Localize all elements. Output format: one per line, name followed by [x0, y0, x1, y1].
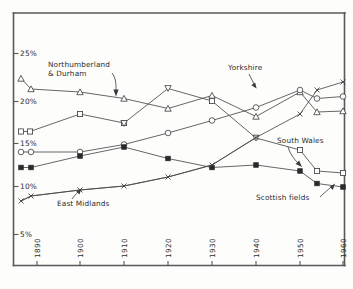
series-square-open [18, 86, 345, 176]
marker-square-filled [78, 154, 83, 159]
marker-square-filled [298, 169, 303, 174]
marker-square [77, 111, 82, 116]
annotation-label-line2: & Durham [48, 69, 87, 78]
x-tick-label-1900: 1900 [76, 238, 85, 258]
annotation-arrowhead-icon [251, 83, 256, 89]
marker-square-filled [341, 185, 346, 190]
x-tick-label-1960: 1960 [339, 238, 348, 258]
y-tick-label-20: 20% [20, 97, 37, 106]
marker-square [314, 168, 319, 173]
marker-square-filled [29, 165, 34, 170]
y-tick-label-15: 15% [20, 139, 37, 148]
x-tick-label-1950: 1950 [296, 238, 305, 258]
marker-x [19, 199, 24, 204]
series-south-wales [19, 145, 346, 190]
figure-panel: 25% 20% 15% 10% 5% 1890 1900 1910 1920 1… [0, 0, 353, 289]
series-line-a [21, 138, 256, 202]
series-northumberland-durham [18, 75, 346, 119]
marker-circle [28, 149, 34, 155]
marker-circle [209, 118, 215, 124]
x-axis-ticks: 1890 1900 1910 1920 1930 1940 1950 1960 [33, 238, 348, 265]
marker-square [27, 129, 32, 134]
marker-square [209, 98, 214, 103]
annotation-label-line1: Northumberland [48, 60, 110, 69]
marker-circle [165, 130, 171, 136]
annotation-arrowhead-icon [113, 90, 118, 97]
marker-square [18, 129, 23, 134]
y-axis-ticks: 25% 20% 15% 10% 5% [14, 49, 38, 239]
marker-square-filled [122, 145, 127, 150]
annotation-leader [72, 192, 78, 199]
y-tick-label-25: 25% [20, 49, 37, 58]
series-line [21, 89, 343, 174]
marker-circle [340, 94, 346, 100]
annotation-leader [320, 187, 331, 197]
annotation-arrowhead-icon [330, 184, 335, 191]
marker-circle [297, 87, 303, 93]
annotation-label: Scottish fields [256, 193, 309, 202]
x-tick-label-1930: 1930 [208, 238, 217, 258]
marker-square-filled [166, 156, 171, 161]
marker-square-filled [210, 165, 215, 170]
x-tick-label-1910: 1910 [120, 238, 129, 258]
x-tick-label-1890: 1890 [33, 238, 42, 258]
marker-square-filled [19, 165, 24, 170]
marker-x [315, 88, 320, 93]
series-line [21, 79, 343, 117]
x-tick-label-1920: 1920 [164, 238, 173, 258]
annotation-leader [112, 73, 116, 90]
annotation-label: Yorkshire [227, 63, 263, 72]
marker-triangle-up [209, 92, 215, 98]
marker-circle [18, 149, 24, 155]
marker-triangle-up [18, 75, 24, 81]
y-tick-label-5: 5% [20, 230, 32, 239]
annotation-label: South Wales [277, 136, 324, 145]
x-tick-label-1940: 1940 [252, 238, 261, 258]
line-chart: 25% 20% 15% 10% 5% 1890 1900 1910 1920 1… [0, 0, 353, 289]
annotation-yorkshire: Yorkshire [227, 63, 263, 89]
marker-square-filled [254, 163, 259, 168]
marker-triangle-up [253, 113, 259, 119]
annotation-scottish-fields: Scottish fields [256, 184, 335, 203]
marker-square [340, 170, 345, 175]
marker-circle [314, 96, 320, 102]
annotation-leader [249, 74, 254, 84]
annotation-label: East Midlands [57, 199, 110, 208]
marker-square [297, 147, 302, 152]
marker-square-filled [315, 181, 320, 186]
y-tick-label-10: 10% [20, 182, 37, 191]
marker-circle [253, 105, 259, 111]
series-line [21, 147, 343, 187]
marker-x [298, 112, 303, 117]
